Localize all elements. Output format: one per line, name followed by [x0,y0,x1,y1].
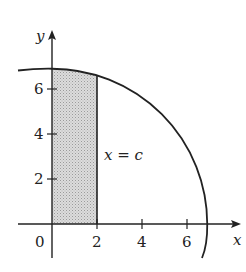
x-tick-label-4: 4 [137,233,147,251]
y-axis-label: y [35,27,45,45]
diagram: 0 2 4 6 x 2 4 6 y x = c [0,0,246,272]
x-tick-label-2: 2 [92,233,102,251]
shaded-region [52,69,97,224]
origin-label: 0 [35,233,45,251]
y-tick-label-4: 4 [34,125,44,143]
y-tick-label-6: 6 [34,80,44,98]
x-tick-label-6: 6 [182,233,192,251]
line-label: x = c [104,146,144,164]
x-axis-label: x [233,231,242,249]
y-tick-label-2: 2 [34,170,44,188]
